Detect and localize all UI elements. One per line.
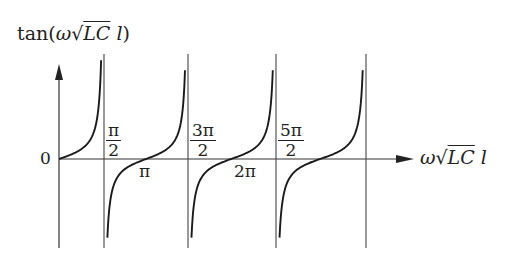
label-2pi: 2π xyxy=(234,163,256,180)
label-3pi-over-2: 3π 2 xyxy=(190,122,216,159)
asymptotes xyxy=(104,54,366,248)
tan-graph-diagram: tan(ω√LC l) ω√LC l 0 π 2 3π 2 5π 2 π 2π xyxy=(0,0,522,267)
label-5pi-over-2: 5π 2 xyxy=(278,122,304,159)
y-axis-arrow-icon xyxy=(55,64,63,80)
tan-branch xyxy=(59,60,101,159)
x-axis-label: ω√LC l xyxy=(420,148,487,167)
label-pi-over-2: π 2 xyxy=(106,122,121,159)
x-axis-arrow-icon xyxy=(396,155,414,163)
label-pi: π xyxy=(139,163,150,180)
origin-label: 0 xyxy=(40,150,51,167)
y-axis-label: tan(ω√LC l) xyxy=(17,24,130,43)
